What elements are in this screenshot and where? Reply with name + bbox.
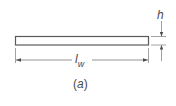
length-subscript: w — [78, 59, 85, 69]
arrowhead-right-icon — [143, 58, 148, 61]
thickness-label: h — [157, 9, 164, 21]
diagram-canvas — [0, 0, 176, 106]
caption-close-paren: ) — [84, 77, 88, 91]
figure-caption: (a) — [73, 78, 88, 90]
arrowhead-up-icon — [160, 45, 163, 50]
length-label: lw — [73, 53, 86, 65]
wall-dimension-diagram: h lw (a) — [0, 0, 176, 106]
arrowhead-left-icon — [16, 58, 21, 61]
caption-letter: a — [77, 77, 84, 91]
arrowhead-down-icon — [160, 32, 163, 37]
wall-rectangle — [16, 37, 149, 46]
